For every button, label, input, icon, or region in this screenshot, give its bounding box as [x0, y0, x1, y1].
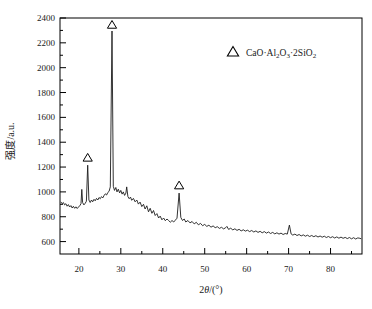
- y-tick-label: 2000: [37, 63, 56, 73]
- y-tick-label: 800: [42, 212, 56, 222]
- y-tick-label: 600: [42, 237, 56, 247]
- y-tick-label: 1800: [37, 88, 56, 98]
- peak-marker-triangle-icon: [175, 181, 184, 189]
- xrd-figure: 2030405060708060080010001200140016001800…: [0, 0, 372, 309]
- y-tick-label: 2200: [37, 38, 56, 48]
- x-axis-label: 2θ/(°): [199, 284, 222, 296]
- x-tick-label: 20: [74, 264, 84, 274]
- x-tick-label: 60: [242, 264, 252, 274]
- y-tick-label: 1400: [37, 137, 56, 147]
- legend-label: CaO·Al2O3·2SiO2: [246, 48, 317, 60]
- peak-marker-triangle-icon: [107, 21, 116, 29]
- x-tick-label: 80: [326, 264, 336, 274]
- y-axis-label: 强度/a.u.: [4, 122, 16, 159]
- x-tick-label: 40: [158, 264, 168, 274]
- x-tick-label: 30: [116, 264, 126, 274]
- legend: CaO·Al2O3·2SiO2: [227, 47, 316, 61]
- legend-triangle-icon: [227, 47, 238, 57]
- peak-marker-triangle-icon: [83, 153, 92, 161]
- y-tick-label: 1000: [37, 187, 56, 197]
- y-tick-label: 1600: [37, 112, 56, 122]
- xrd-curve: [61, 31, 361, 239]
- xrd-chart-canvas: 2030405060708060080010001200140016001800…: [0, 0, 372, 309]
- x-tick-label: 70: [284, 264, 294, 274]
- plot-frame: [60, 18, 362, 254]
- y-tick-label: 2400: [37, 13, 56, 23]
- y-tick-label: 1200: [37, 162, 56, 172]
- x-tick-label: 50: [200, 264, 210, 274]
